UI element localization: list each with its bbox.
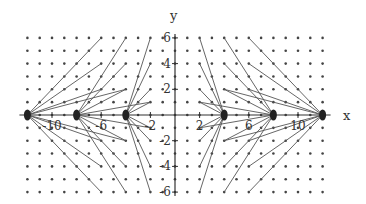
grid-dot <box>235 165 238 168</box>
grid-dot <box>63 191 66 194</box>
grid-dot <box>26 49 29 52</box>
grid-dot <box>309 37 312 40</box>
grid-dot <box>137 178 140 181</box>
grid-dot <box>26 178 29 181</box>
grid-dot <box>272 191 275 194</box>
grid-dot <box>260 152 263 155</box>
grid-dot <box>309 62 312 65</box>
grid-dot <box>38 75 41 78</box>
grid-dot <box>297 178 300 181</box>
grid-dot <box>284 165 287 168</box>
grid-dot <box>223 152 226 155</box>
grid-dot <box>26 152 29 155</box>
grid-dot <box>125 75 128 78</box>
grid-dot <box>309 139 312 142</box>
grid-dot <box>63 37 66 40</box>
grid-dot <box>51 101 54 104</box>
grid-dot <box>297 37 300 40</box>
grid-dot <box>51 37 54 40</box>
grid-dot <box>51 75 54 78</box>
grid-dot <box>297 152 300 155</box>
grid-dot <box>186 127 189 130</box>
grid-dot <box>321 178 324 181</box>
grid-dot <box>198 49 201 52</box>
grid-dot <box>321 165 324 168</box>
grid-dot <box>75 178 78 181</box>
grid-dot <box>272 178 275 181</box>
grid-dot <box>235 139 238 142</box>
grid-dot <box>309 75 312 78</box>
grid-dot <box>26 75 29 78</box>
grid-dot <box>235 37 238 40</box>
x-tick-label: -6 <box>95 119 107 133</box>
grid-dot <box>211 62 214 65</box>
grid-dot <box>309 152 312 155</box>
grid-dot <box>309 49 312 52</box>
grid-dot <box>235 62 238 65</box>
y-tick-label: 6 <box>163 31 171 45</box>
grid-dot <box>125 49 128 52</box>
grid-dot <box>161 127 164 130</box>
grid-dot <box>272 75 275 78</box>
grid-dot <box>211 165 214 168</box>
grid-dot <box>186 152 189 155</box>
grid-dot <box>112 178 115 181</box>
grid-dot <box>321 101 324 104</box>
grid-dot <box>88 75 91 78</box>
grid-dot <box>235 127 238 130</box>
grid-dot <box>321 152 324 155</box>
grid-dot <box>235 191 238 194</box>
grid-dot <box>38 139 41 142</box>
grid-dot <box>223 75 226 78</box>
y-axis-label: y <box>169 8 178 23</box>
grid-dot <box>284 49 287 52</box>
grid-dot <box>235 101 238 104</box>
grid-dot <box>75 37 78 40</box>
grid-dot <box>88 37 91 40</box>
grid-dot <box>235 178 238 181</box>
grid-dot <box>321 191 324 194</box>
y-tick-label: 2 <box>163 82 171 96</box>
grid-dot <box>149 152 152 155</box>
grid-dot <box>321 49 324 52</box>
grid-dot <box>211 37 214 40</box>
diagram-canvas: -10-6-22610-6-4-2246 x y <box>0 0 366 204</box>
grid-dot <box>88 165 91 168</box>
grid-dot <box>186 191 189 194</box>
source-point <box>24 110 31 121</box>
grid-dot <box>297 101 300 104</box>
grid-dot <box>223 101 226 104</box>
grid-dot <box>161 75 164 78</box>
grid-dot <box>88 191 91 194</box>
grid-dot <box>51 152 54 155</box>
grid-dot <box>112 101 115 104</box>
grid-dot <box>38 49 41 52</box>
grid-dot <box>88 88 91 91</box>
grid-dot <box>272 152 275 155</box>
grid-dot <box>260 62 263 65</box>
grid-dot <box>161 49 164 52</box>
grid-dot <box>248 49 251 52</box>
grid-dot <box>161 178 164 181</box>
grid-dot <box>38 178 41 181</box>
source-point <box>319 110 326 121</box>
grid-dot <box>26 101 29 104</box>
grid-dot <box>284 37 287 40</box>
grid-dot <box>125 152 128 155</box>
grid-dot <box>112 37 115 40</box>
grid-dot <box>161 152 164 155</box>
grid-dot <box>63 165 66 168</box>
grid-dot <box>51 165 54 168</box>
x-tick-label: 6 <box>245 119 253 133</box>
grid-dot <box>211 191 214 194</box>
grid-dot <box>137 49 140 52</box>
grid-dot <box>51 62 54 65</box>
grid-dot <box>149 75 152 78</box>
grid-dot <box>149 178 152 181</box>
grid-dot <box>26 37 29 40</box>
grid-dot <box>38 88 41 91</box>
grid-dot <box>88 139 91 142</box>
grid-dot <box>112 62 115 65</box>
grid-dot <box>260 191 263 194</box>
grid-dot <box>284 191 287 194</box>
